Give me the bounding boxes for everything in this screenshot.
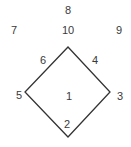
label-4: 4 — [92, 55, 98, 66]
label-10: 10 — [62, 25, 74, 36]
label-7: 7 — [11, 25, 17, 36]
label-1: 1 — [66, 91, 72, 102]
label-5: 5 — [16, 90, 22, 101]
label-3: 3 — [117, 91, 123, 102]
label-8: 8 — [65, 5, 71, 16]
label-9: 9 — [116, 25, 122, 36]
diagram-canvas: 8 7 10 9 6 4 5 1 3 2 — [0, 0, 131, 147]
label-6: 6 — [40, 55, 46, 66]
label-2: 2 — [64, 119, 70, 130]
